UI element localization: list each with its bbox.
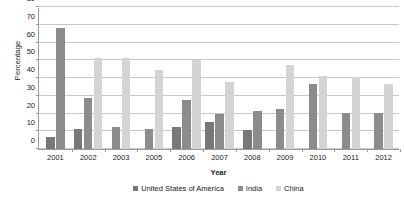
legend-label: United States of America xyxy=(141,184,224,193)
bar-group: 2002 xyxy=(72,8,105,149)
x-tick-label-2002: 2002 xyxy=(80,153,97,162)
bar-india-2011[interactable] xyxy=(342,113,351,149)
x-tick-mark xyxy=(334,149,335,152)
legend-label: China xyxy=(284,184,304,193)
bar-china-2011[interactable] xyxy=(352,77,361,149)
x-tick-label-2010: 2010 xyxy=(310,153,327,162)
bar-china-2009[interactable] xyxy=(286,65,295,149)
x-tick-mark xyxy=(400,149,401,152)
x-tick-mark xyxy=(367,149,368,152)
bar-china-2006[interactable] xyxy=(192,60,201,149)
chart-legend: United States of AmericaIndiaChina xyxy=(38,184,399,193)
x-tick-label-2008: 2008 xyxy=(244,153,261,162)
bar-chart: Percentage 01020304050607080 20012002200… xyxy=(0,0,405,204)
y-tick-label: 80 xyxy=(27,0,35,3)
bar-india-2008[interactable] xyxy=(253,111,262,149)
bar-india-2012[interactable] xyxy=(374,113,383,149)
bar-india-2003[interactable] xyxy=(112,127,121,149)
x-tick-mark xyxy=(302,149,303,152)
bar-group: 2011 xyxy=(334,8,367,149)
x-tick-label-2009: 2009 xyxy=(277,153,294,162)
y-tick-label: 20 xyxy=(27,100,35,109)
legend-item-china[interactable]: China xyxy=(276,184,304,193)
x-tick-mark xyxy=(137,149,138,152)
legend-swatch-icon xyxy=(238,186,243,191)
x-tick-label-2012: 2012 xyxy=(375,153,392,162)
y-tick-label: 40 xyxy=(27,65,35,74)
bar-united-states-of-america-2008[interactable] xyxy=(243,130,252,149)
bar-united-states-of-america-2007[interactable] xyxy=(205,122,214,150)
bar-group: 2012 xyxy=(367,8,400,149)
y-tick-label: 60 xyxy=(27,29,35,38)
y-tick-label: 70 xyxy=(27,11,35,20)
legend-item-india[interactable]: India xyxy=(238,184,262,193)
bar-india-2007[interactable] xyxy=(215,114,224,149)
x-tick-label-2006: 2006 xyxy=(178,153,195,162)
x-tick-label-2003: 2003 xyxy=(113,153,130,162)
bar-india-2009[interactable] xyxy=(276,109,285,149)
y-tick-label: 30 xyxy=(27,82,35,91)
x-tick-mark xyxy=(72,149,73,152)
x-tick-mark xyxy=(170,149,171,152)
bar-group: 2001 xyxy=(39,8,72,149)
x-tick-label-2001: 2001 xyxy=(47,153,64,162)
x-axis-title: Year xyxy=(38,168,399,177)
y-axis-title: Percentage xyxy=(13,16,22,106)
bar-group: 2003 xyxy=(105,8,138,149)
bars-layer: 2001200220032005200620072008200920102011… xyxy=(39,8,399,149)
bar-china-2007[interactable] xyxy=(225,82,234,149)
bar-india-2001[interactable] xyxy=(56,28,65,149)
x-tick-label-2005: 2005 xyxy=(146,153,163,162)
bar-china-2002[interactable] xyxy=(94,58,103,149)
y-tick-label: 0 xyxy=(31,136,35,145)
x-tick-mark xyxy=(269,149,270,152)
bar-united-states-of-america-2001[interactable] xyxy=(46,137,55,149)
legend-item-united-states-of-america[interactable]: United States of America xyxy=(133,184,224,193)
bar-group: 2005 xyxy=(137,8,170,149)
y-tick-label: 50 xyxy=(27,47,35,56)
bar-china-2003[interactable] xyxy=(122,58,131,149)
legend-swatch-icon xyxy=(133,186,138,191)
bar-united-states-of-america-2002[interactable] xyxy=(74,129,83,149)
legend-label: India xyxy=(246,184,262,193)
bar-group: 2006 xyxy=(170,8,203,149)
plot-area: 01020304050607080 2001200220032005200620… xyxy=(38,8,399,150)
x-tick-mark xyxy=(203,149,204,152)
bar-china-2010[interactable] xyxy=(319,76,328,149)
x-tick-mark xyxy=(105,149,106,152)
bar-group: 2009 xyxy=(269,8,302,149)
bar-united-states-of-america-2006[interactable] xyxy=(172,127,181,149)
legend-swatch-icon xyxy=(276,186,281,191)
bar-group: 2007 xyxy=(203,8,236,149)
bar-india-2006[interactable] xyxy=(182,100,191,149)
gridline xyxy=(39,6,399,7)
y-tick-mark xyxy=(36,6,39,7)
y-tick-label: 10 xyxy=(27,118,35,127)
bar-india-2010[interactable] xyxy=(309,84,318,149)
bar-india-2005[interactable] xyxy=(145,129,154,149)
x-tick-label-2011: 2011 xyxy=(343,153,359,162)
bar-china-2012[interactable] xyxy=(384,84,393,149)
bar-group: 2010 xyxy=(302,8,335,149)
x-tick-label-2007: 2007 xyxy=(211,153,228,162)
x-tick-mark xyxy=(236,149,237,152)
bar-india-2002[interactable] xyxy=(84,98,93,149)
bar-china-2005[interactable] xyxy=(155,70,164,149)
bar-group: 2008 xyxy=(236,8,269,149)
